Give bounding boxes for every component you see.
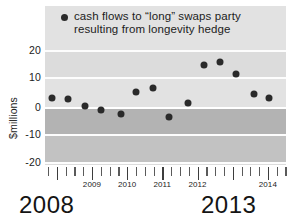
legend: cash flows to “long” swaps party resulti…	[61, 10, 281, 36]
data-point	[117, 111, 124, 118]
y-axis-title: $millions	[7, 83, 19, 153]
x-axis-tick-minor	[48, 167, 49, 176]
x-axis-tick-minor	[285, 167, 286, 176]
x-axis-tick-minor	[110, 167, 111, 176]
band-20-10	[45, 51, 286, 78]
data-point	[200, 62, 207, 69]
big-year-label-end: 2013	[201, 192, 256, 218]
gridline-neg10	[45, 134, 286, 136]
x-axis-tick-label: 2014	[259, 180, 277, 189]
x-axis-tick-minor	[242, 167, 243, 176]
x-axis-tick-minor	[136, 167, 137, 176]
x-axis-tick-minor	[101, 167, 102, 176]
big-year-label-start: 2008	[19, 192, 74, 218]
y-tick-label: 20	[29, 44, 41, 56]
x-axis-tick-major	[162, 167, 163, 180]
data-point	[184, 99, 191, 106]
x-axis-tick-major	[233, 167, 234, 180]
x-axis-tick-minor	[215, 167, 216, 176]
x-axis: 20092010201120122014	[45, 167, 286, 187]
data-point	[132, 89, 139, 96]
x-axis-tick-minor	[259, 167, 260, 176]
data-point	[216, 59, 223, 66]
x-axis-tick-label: 2010	[118, 180, 136, 189]
x-axis-tick-minor	[118, 167, 119, 176]
data-point	[251, 90, 258, 97]
x-axis-tick-major	[198, 167, 199, 180]
x-axis-tick-major	[92, 167, 93, 180]
data-point	[98, 107, 105, 114]
data-point	[166, 113, 173, 120]
legend-label-line2: resulting from longevity hedge	[74, 23, 241, 36]
y-tick-label: 0	[35, 101, 41, 113]
x-axis-tick-minor	[74, 167, 75, 176]
x-axis-tick-minor	[154, 167, 155, 176]
x-axis-tick-minor	[250, 167, 251, 176]
chart-root: cash flows to “long” swaps party resulti…	[0, 0, 288, 224]
band-neg10-neg20	[45, 135, 286, 163]
y-tick-label: -10	[25, 128, 41, 140]
x-axis-tick-major	[268, 167, 269, 180]
x-axis-tick-major	[127, 167, 128, 180]
y-tick-label: -20	[25, 156, 41, 168]
legend-marker-icon	[61, 14, 68, 21]
y-tick-label: 10	[29, 71, 41, 83]
data-point	[64, 96, 71, 103]
legend-label: cash flows to “long” swaps party resulti…	[74, 10, 241, 36]
x-axis-tick-minor	[224, 167, 225, 176]
x-axis-tick-major	[57, 167, 58, 180]
x-axis-tick-minor	[206, 167, 207, 176]
data-point	[266, 95, 273, 102]
x-axis-tick-minor	[83, 167, 84, 176]
x-axis-tick-minor	[145, 167, 146, 176]
x-axis-tick-minor	[180, 167, 181, 176]
y-axis: 20 10 0 -10 -20 $millions	[0, 0, 45, 180]
x-axis-tick-label: 2011	[154, 180, 172, 189]
x-axis-tick-minor	[277, 167, 278, 176]
x-axis-tick-minor	[171, 167, 172, 176]
plot-area: cash flows to “long” swaps party resulti…	[45, 6, 286, 165]
gridline-10	[45, 77, 286, 79]
data-point	[149, 84, 156, 91]
band-0-neg10	[45, 108, 286, 135]
gridline-neg20	[45, 162, 286, 164]
x-axis-tick-minor	[189, 167, 190, 176]
gridline-20	[45, 50, 286, 52]
data-point	[232, 70, 239, 77]
x-axis-tick-minor	[66, 167, 67, 176]
data-point	[49, 94, 56, 101]
legend-label-line1: cash flows to “long” swaps party	[74, 10, 241, 23]
x-axis-tick-label: 2009	[83, 180, 101, 189]
x-axis-tick-label: 2012	[188, 180, 206, 189]
data-point	[82, 102, 89, 109]
